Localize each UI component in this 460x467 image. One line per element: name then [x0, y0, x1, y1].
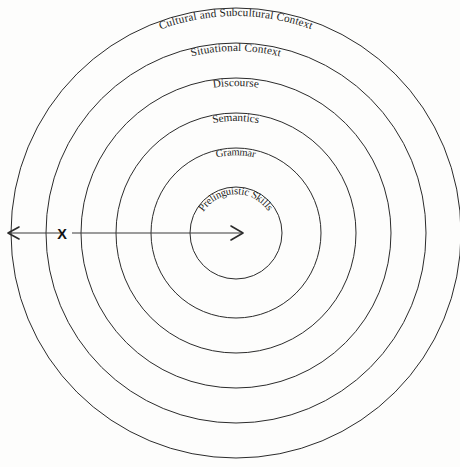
- concentric-rings-diagram: Cultural and Subcultural Context Situati…: [0, 0, 460, 467]
- bidirectional-axis-arrow: X: [8, 226, 243, 242]
- axis-x-marker: X: [57, 226, 67, 242]
- ring-labels: Cultural and Subcultural Context Situati…: [157, 6, 315, 213]
- ring-label-situational: Situational Context: [189, 41, 283, 59]
- ring-label-discourse: Discourse: [212, 76, 260, 90]
- ring-label-prelinguistic: Prelinguistic Skills: [196, 185, 276, 213]
- ring-label-cultural: Cultural and Subcultural Context: [157, 6, 315, 32]
- figure-canvas: Cultural and Subcultural Context Situati…: [0, 0, 460, 467]
- ring-label-semantics: Semantics: [211, 111, 261, 125]
- ring-label-grammar: Grammar: [215, 146, 258, 159]
